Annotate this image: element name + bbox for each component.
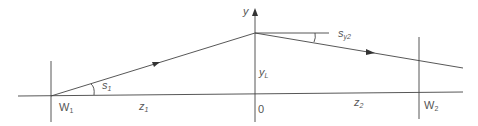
y-axis-label: y xyxy=(242,5,250,17)
sy2-angle-arc xyxy=(314,33,315,42)
z1-label: z1 xyxy=(138,100,149,113)
yL-label: yL xyxy=(258,66,269,79)
z2-label: z2 xyxy=(353,96,364,109)
ray-direction-arrow-icon-2 xyxy=(366,49,375,55)
z-axis xyxy=(18,92,463,96)
y-axis-arrow-icon xyxy=(252,8,258,16)
outgoing-ray xyxy=(255,33,463,68)
w1-label: W1 xyxy=(59,101,73,114)
s1-label: s1 xyxy=(102,79,112,92)
w2-label: W2 xyxy=(424,99,438,112)
origin-label: 0 xyxy=(258,103,264,115)
sy2-label: sy2 xyxy=(338,27,351,41)
ray-direction-arrow-icon xyxy=(152,62,160,67)
ray-diagram: y 0 W1 W2 z1 z2 s1 sy2 yL xyxy=(0,0,478,126)
s1-angle-arc xyxy=(91,84,94,95)
